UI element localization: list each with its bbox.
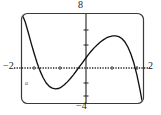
plot-canvas [0, 0, 161, 115]
x-axis-min-label: −2 [3, 61, 14, 71]
x-axis-max-label: 2 [148, 61, 153, 71]
viewport-frame [22, 14, 144, 104]
corner-artifact-mark: a [25, 80, 28, 86]
graph-figure: 8 −4 −2 2 a [0, 0, 161, 115]
y-axis-max-label: 8 [78, 0, 83, 10]
y-axis-min-label: −4 [76, 101, 87, 111]
